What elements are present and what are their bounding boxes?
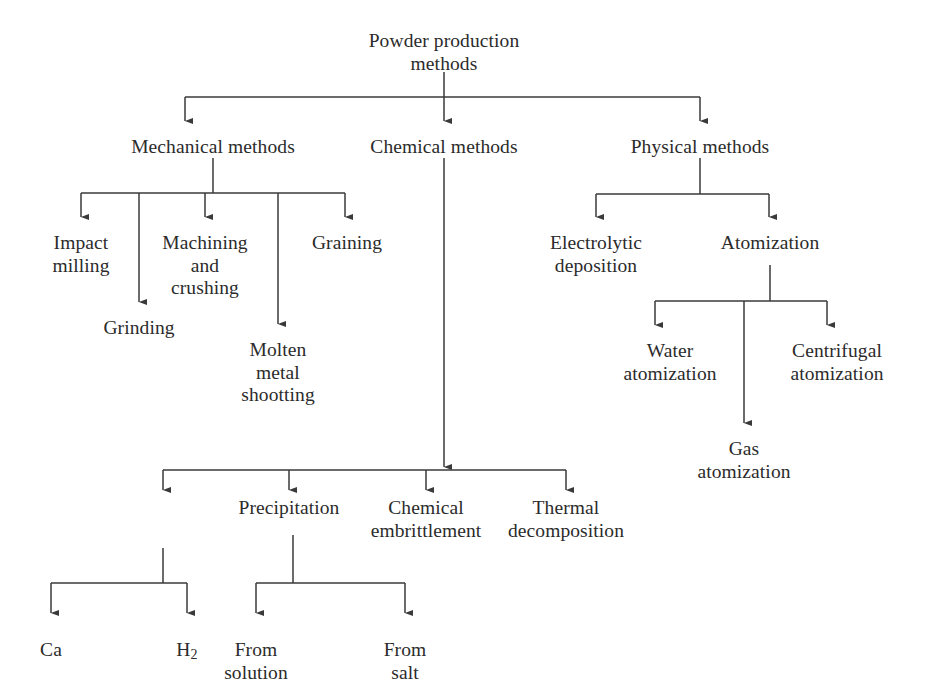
node-precipitation: Precipitation <box>239 497 340 520</box>
node-chemical-methods: Chemical methods <box>370 136 517 159</box>
node-grinding: Grinding <box>103 317 174 340</box>
node-centrifugal-atomization: Centrifugal atomization <box>790 340 883 385</box>
edge-precipitation-distributor <box>256 535 405 613</box>
node-h2: H2 <box>176 639 197 662</box>
tree-connector-lines <box>0 0 927 695</box>
node-electrolytic-deposition: Electrolytic deposition <box>550 232 642 277</box>
edge-chemical-distributor <box>163 470 566 490</box>
edge-physical-distributor <box>596 158 769 217</box>
node-from-salt: From salt <box>384 639 427 684</box>
node-machining-and-crushing: Machining and crushing <box>162 232 247 300</box>
node-impact-milling: Impact milling <box>52 232 109 277</box>
node-thermal-decomposition: Thermal decomposition <box>508 497 624 542</box>
powder-production-methods-diagram: Powder production methods Mechanical met… <box>0 0 927 695</box>
node-h2-subscript: 2 <box>191 646 198 662</box>
node-mechanical-methods: Mechanical methods <box>131 136 295 159</box>
node-physical-methods: Physical methods <box>631 136 770 159</box>
node-atomization: Atomization <box>721 232 820 255</box>
node-from-solution: From solution <box>224 639 288 684</box>
node-root: Powder production methods <box>369 30 520 75</box>
node-molten-metal-shootting: Molten metal shootting <box>241 339 315 407</box>
node-h2-element: H <box>176 639 190 660</box>
node-water-atomization: Water atomization <box>623 340 716 385</box>
node-graining: Graining <box>312 232 382 255</box>
node-ca: Ca <box>40 639 62 662</box>
edge-root-distributor <box>185 72 700 121</box>
edge-reduction-distributor <box>51 548 187 613</box>
node-chemical-embrittlement: Chemical embrittlement <box>371 497 482 542</box>
node-gas-atomization: Gas atomization <box>697 438 790 483</box>
